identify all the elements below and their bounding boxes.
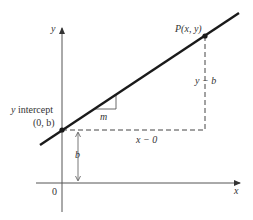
point-p [202,33,207,38]
x-axis-label: x [233,185,239,196]
b-distance-label: b [75,149,80,160]
slope-intercept-diagram: y x 0 P(x, y) y − b x − 0 m b y intercep… [0,0,253,220]
slope-label: m [100,111,107,122]
y-intercept-title: y intercept [10,104,53,115]
origin-label: 0 [52,186,57,197]
y-axis-label: y [50,23,56,34]
y-intercept-point-label: (0, b) [33,117,55,129]
rise-label: y − b [194,75,216,86]
run-label: x − 0 [135,134,157,145]
y-intercept-point [59,127,64,132]
point-p-label: P(x, y) [174,23,202,35]
